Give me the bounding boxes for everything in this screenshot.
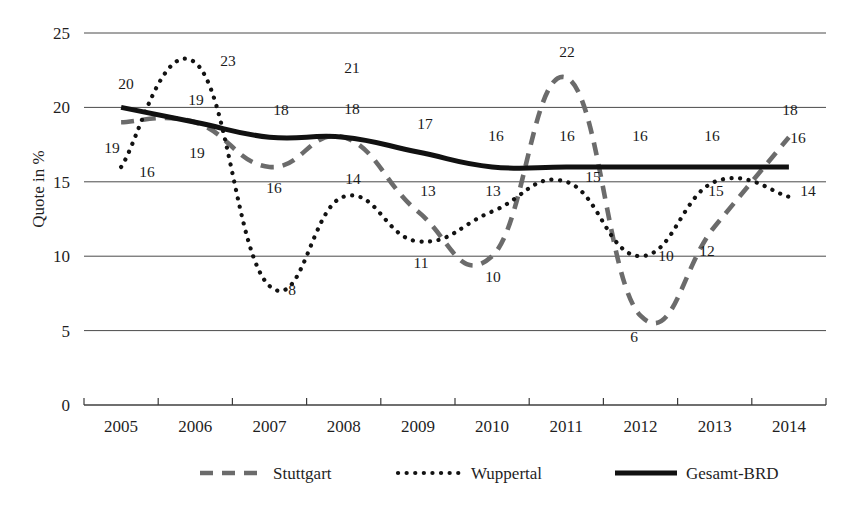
legend-label-stuttgart: Stuttgart: [273, 464, 332, 483]
data-label: 16: [559, 127, 575, 144]
legend-label-wuppertal: Wuppertal: [471, 464, 542, 483]
data-label: 19: [188, 91, 204, 108]
data-label: 23: [220, 52, 236, 69]
data-label: 22: [559, 43, 575, 60]
data-label: 17: [417, 115, 433, 132]
y-tick-label: 5: [62, 322, 71, 341]
x-tick-label: 2012: [624, 417, 658, 436]
legend-label-gesamt-brd: Gesamt-BRD: [686, 464, 779, 483]
data-label: 18: [782, 101, 798, 118]
data-label: 16: [266, 179, 282, 196]
x-tick-label: 2014: [772, 417, 807, 436]
y-tick-label: 20: [53, 98, 70, 117]
data-label: 21: [344, 59, 360, 76]
legend: StuttgartWuppertalGesamt-BRD: [200, 464, 779, 483]
x-tick-label: 2008: [327, 417, 361, 436]
y-tick-label: 10: [53, 247, 70, 266]
series-group: [121, 59, 789, 324]
x-tick-label: 2010: [475, 417, 509, 436]
x-tick-label: 2013: [698, 417, 732, 436]
y-tick-labels: 0510152025: [53, 24, 70, 415]
y-tick-label: 25: [53, 24, 70, 43]
data-label: 18: [344, 100, 360, 117]
data-label: 15: [708, 182, 724, 199]
data-label: 11: [414, 254, 429, 271]
data-label: 13: [420, 182, 436, 199]
series-line-gesamt-brd: [121, 107, 789, 168]
data-label: 16: [704, 127, 720, 144]
line-chart: 0510152025Quote in %20052006200720082009…: [0, 0, 859, 511]
data-label: 18: [273, 101, 289, 118]
data-label: 20: [118, 75, 134, 92]
x-tick-label: 2009: [401, 417, 435, 436]
data-label: 16: [139, 163, 155, 180]
data-label: 6: [630, 328, 638, 345]
x-tick-label: 2011: [550, 417, 583, 436]
data-label: 14: [345, 170, 361, 187]
data-label: 16: [632, 127, 648, 144]
chart-figure: 0510152025Quote in %20052006200720082009…: [0, 0, 859, 511]
series-line-stuttgart: [121, 77, 789, 323]
gridlines-group: [84, 33, 826, 405]
y-tick-label: 15: [53, 173, 70, 192]
x-axis-group: 2005200620072008200920102011201220132014: [84, 398, 826, 436]
x-tick-label: 2007: [253, 417, 288, 436]
y-axis-title: Quote in %: [29, 150, 48, 227]
data-label: 13: [485, 182, 501, 199]
data-label: 12: [699, 242, 715, 259]
data-label: 14: [800, 182, 816, 199]
data-label: 19: [104, 139, 120, 156]
data-label: 15: [585, 168, 601, 185]
data-label: 16: [790, 129, 806, 146]
data-label: 10: [485, 268, 501, 285]
data-label: 8: [288, 281, 296, 298]
data-label: 10: [658, 247, 674, 264]
x-tick-label: 2005: [104, 417, 138, 436]
x-tick-label: 2006: [178, 417, 212, 436]
data-label: 19: [189, 144, 205, 161]
data-label: 16: [488, 127, 504, 144]
y-tick-label: 0: [62, 396, 71, 415]
